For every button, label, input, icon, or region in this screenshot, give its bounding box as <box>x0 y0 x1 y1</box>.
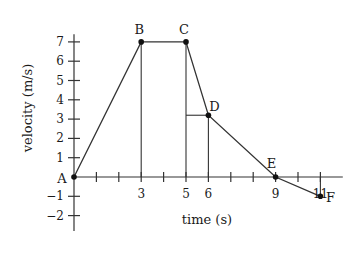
x-tick-label: 3 <box>137 187 145 201</box>
velocity-line <box>74 42 320 196</box>
x-tick-label: 5 <box>182 187 190 201</box>
x-axis-label: time (s) <box>182 212 232 227</box>
point-e <box>273 174 279 180</box>
velocity-time-chart: ABCDEF 3569117654321−1−2 time (s) veloci… <box>0 0 363 257</box>
point-label-a: A <box>56 171 67 186</box>
y-tick-label: −2 <box>46 209 64 223</box>
point-label-d: D <box>209 99 219 114</box>
x-tick-label: 6 <box>205 187 213 201</box>
point-label-e: E <box>267 156 277 171</box>
data-points: ABCDEF <box>56 22 335 205</box>
y-tick-label: 7 <box>56 35 64 49</box>
point-label-b: B <box>134 22 144 37</box>
y-tick-label: 1 <box>56 151 64 165</box>
y-tick-label: −1 <box>46 189 64 203</box>
y-tick-label: 4 <box>56 93 64 107</box>
y-tick-label: 2 <box>56 131 64 145</box>
point-label-c: C <box>179 22 189 37</box>
y-tick-label: 5 <box>56 74 64 88</box>
x-tick-label: 9 <box>272 187 280 201</box>
point-b <box>138 39 144 45</box>
y-tick-label: 6 <box>56 54 64 68</box>
velocity-curve <box>74 42 320 196</box>
tick-labels: 3569117654321−1−2 <box>46 35 328 223</box>
y-axis-label: velocity (m/s) <box>20 64 35 154</box>
y-tick-label: 3 <box>56 112 64 126</box>
axes <box>68 34 343 231</box>
x-tick-label: 11 <box>313 187 328 201</box>
point-a <box>71 174 77 180</box>
point-c <box>183 39 189 45</box>
